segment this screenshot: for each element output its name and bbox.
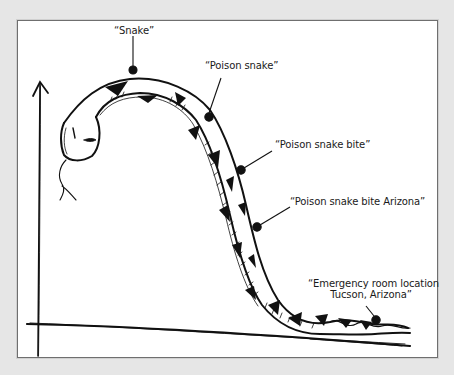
snake-eye [84, 139, 96, 142]
label-poison-snake: “Poison snake” [205, 60, 278, 71]
y-axis [33, 82, 48, 356]
label-emergency-room-line1: “Emergency room location [308, 278, 434, 289]
label-poison-snake-bite: “Poison snake bite” [275, 139, 370, 150]
label-emergency-room-line2: Tucson, Arizona” [308, 289, 434, 300]
long-tail-snake-illustration [0, 0, 454, 375]
pointer-dot-poison-snake-bite-arizona [253, 223, 261, 231]
pointer-dot-poison-snake-bite [237, 166, 245, 174]
label-emergency-room: “Emergency room location Tucson, Arizona… [308, 278, 434, 300]
label-snake: “Snake” [114, 25, 154, 36]
pointer-dot-poison-snake [205, 113, 213, 121]
snake-tongue [59, 160, 76, 200]
pointer-dot-emergency-room [372, 316, 380, 324]
label-poison-snake-bite-arizona: “Poison snake bite Arizona” [290, 196, 425, 207]
pointer-dot-snake [129, 66, 137, 74]
